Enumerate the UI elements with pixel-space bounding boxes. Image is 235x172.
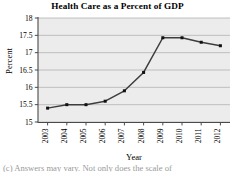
y-tick-label: 17	[25, 48, 33, 57]
x-tick-labels: 2003200420052006200720082009201020112012	[41, 128, 223, 143]
y-tick-label: 18	[25, 14, 33, 23]
chart-figure: Health Care as a Percent of GDP Percent …	[0, 0, 235, 172]
data-point	[123, 89, 126, 92]
y-tick-label: 16	[25, 83, 33, 92]
x-tick-label: 2007	[117, 128, 126, 143]
figure-caption: (c) Answers may vary. Not only does the …	[3, 163, 235, 172]
x-tick-label: 2010	[175, 128, 184, 143]
data-point	[46, 107, 49, 110]
x-tick-label: 2008	[137, 128, 146, 143]
y-tick-label: 15	[25, 118, 33, 127]
data-point	[200, 41, 203, 44]
plot-area: 1515.51616.51717.518 2003200420052006200…	[0, 0, 235, 172]
y-tick-label: 15.5	[19, 100, 32, 109]
data-point	[161, 36, 164, 39]
x-tick-label: 2009	[156, 128, 165, 143]
x-axis-label: Year	[38, 152, 230, 162]
data-point	[104, 100, 107, 103]
y-tick-label: 16.5	[19, 66, 32, 75]
x-tick-label: 2011	[194, 128, 203, 143]
data-point	[85, 103, 88, 106]
x-tick-label: 2006	[98, 128, 107, 143]
x-tick-label: 2004	[60, 128, 69, 143]
data-point	[142, 71, 145, 74]
x-tick-label: 2012	[213, 128, 222, 143]
x-tick-label: 2005	[79, 128, 88, 143]
y-tick-labels: 1515.51616.51717.518	[19, 14, 33, 127]
data-point	[181, 36, 184, 39]
x-tick-label: 2003	[41, 128, 50, 143]
data-point	[219, 44, 222, 47]
y-tick-label: 17.5	[19, 31, 32, 40]
data-point	[65, 103, 68, 106]
